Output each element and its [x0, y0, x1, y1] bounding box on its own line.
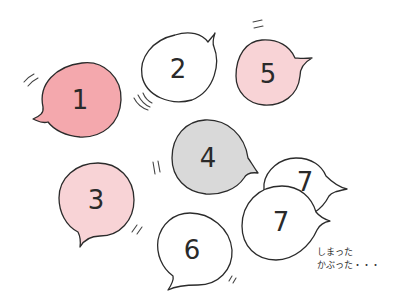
bubble-1: 1: [33, 63, 121, 137]
bubble-5: 5: [236, 40, 312, 105]
motion-lines-icon: [132, 225, 142, 234]
motion-lines-icon: [229, 276, 236, 283]
bubble-6: 6: [158, 213, 232, 290]
motion-lines-icon: [24, 74, 38, 86]
motion-lines-icon: [134, 93, 152, 110]
bubble-5-label: 5: [260, 59, 277, 89]
motion-lines-icon: [253, 20, 263, 28]
bubble-1-label: 1: [72, 85, 89, 115]
bubble-4-label: 4: [200, 143, 217, 173]
bubble-2-label: 2: [170, 54, 187, 84]
speech-bubbles-illustration: 1 2 5 4 7 3 7 6 しまった かぶった・・・: [0, 0, 396, 304]
bubble-7-front-label: 7: [273, 207, 290, 237]
motion-lines-icon: [153, 161, 160, 174]
bubble-3: 3: [59, 163, 134, 247]
bubble-6-label: 6: [184, 235, 201, 265]
bubble-4: 4: [172, 120, 258, 194]
note-line-2: かぶった・・・: [317, 260, 380, 270]
bubble-2: 2: [142, 33, 217, 102]
bubble-3-label: 3: [88, 185, 105, 215]
note-line-1: しまった: [317, 247, 353, 257]
